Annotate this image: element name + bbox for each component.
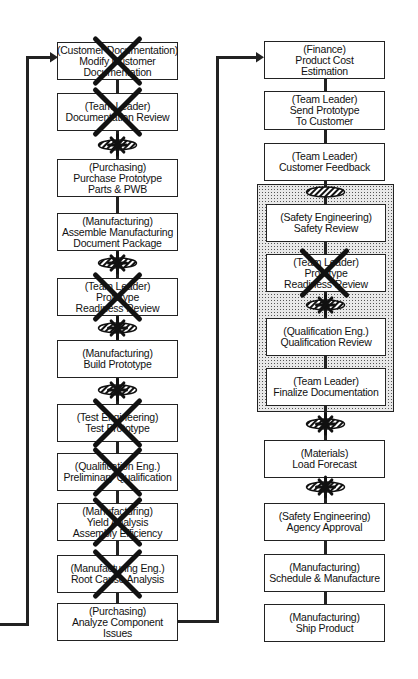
step-label: Readiness Review [76, 303, 160, 314]
step-label: Document Package [73, 238, 161, 249]
process-step-box: (Manufacturing)Ship Product [264, 604, 385, 642]
step-role: (Finance) [303, 44, 346, 55]
step-label: Assembly Efficiency [73, 528, 162, 539]
step-role: (Manufacturing) [82, 216, 153, 227]
step-label: To Customer [296, 116, 353, 127]
step-label: Product Cost [295, 55, 353, 66]
step-label: Prototype [304, 268, 347, 279]
cross-connector-vertical [216, 56, 219, 623]
step-label: Customer Feedback [279, 162, 370, 173]
step-role: (Team Leader) [85, 281, 151, 292]
step-label: Ship Product [296, 623, 354, 634]
step-label: Agency Approval [287, 522, 363, 533]
left-return-bottom [0, 623, 29, 626]
step-label: Estimation [301, 66, 348, 77]
step-label: Preliminary Qualification [63, 472, 171, 483]
process-step-box: (Team Leader)Documentation Review [57, 93, 178, 131]
left-return-line [26, 56, 29, 626]
step-label: Issues [103, 628, 132, 639]
step-label: Purchase Prototype [73, 173, 162, 184]
step-label: Documentation Review [66, 112, 170, 123]
step-role: (Manufacturing) [82, 506, 153, 517]
step-label: Test Prototype [85, 423, 149, 434]
step-label: Assemble Manufacturing [62, 227, 173, 238]
process-step-box: (Manufacturing)Assemble ManufacturingDoc… [57, 213, 178, 251]
process-step-box: (Safety Engineering)Agency Approval [264, 503, 385, 541]
step-label: Yield Analysis [87, 517, 149, 528]
process-step-box: (Materials)Load Forecast [264, 440, 385, 478]
cross-connector-top [216, 56, 258, 59]
step-label: Documentation [83, 67, 151, 78]
process-step-box: (Team Leader)PrototypeReadiness Review [266, 254, 386, 292]
process-step-box: (Purchasing)Analyze ComponentIssues [57, 603, 178, 641]
step-label: Readiness Review [284, 279, 368, 290]
process-step-box: (Finance)Product CostEstimation [264, 41, 385, 79]
step-label: Prototype [96, 292, 139, 303]
step-label: Modify Customer [79, 56, 155, 67]
process-step-box: (Team Leader)Finalize Documentation [266, 368, 386, 406]
left-return-top [26, 56, 50, 59]
process-step-box: (Purchasing)Purchase PrototypeParts & PW… [57, 159, 178, 197]
step-label: Parts & PWB [88, 184, 147, 195]
process-step-box: (Manufacturing)Yield AnalysisAssembly Ef… [57, 503, 178, 541]
cross-connector-bottom [177, 620, 219, 623]
process-step-box: (Safety Engineering)Safety Review [266, 204, 386, 242]
process-step-box: (Qualification Eng.)Qualification Review [266, 318, 386, 356]
step-role: (Team Leader) [293, 257, 359, 268]
step-label: Load Forecast [292, 459, 357, 470]
process-step-box: (Test Engineering)Test Prototype [57, 404, 178, 442]
step-label: Analyze Component [72, 617, 163, 628]
process-step-box: (Manufacturing)Schedule & Manufacture [264, 554, 385, 592]
step-role: (Purchasing) [89, 162, 146, 173]
process-step-box: (Team Leader)Customer Feedback [264, 143, 385, 181]
step-label: Build Prototype [83, 359, 151, 370]
process-step-box: (Customer Documentation)Modify CustomerD… [57, 42, 178, 80]
step-role: (Customer Documentation) [57, 45, 178, 56]
step-label: Safety Review [294, 223, 359, 234]
step-role: (Purchasing) [89, 606, 146, 617]
process-step-box: (Manufacturing Eng.)Root Cause Analysis [57, 555, 178, 593]
process-step-box: (Manufacturing)Build Prototype [57, 340, 178, 378]
process-step-box: (Qualification Eng.)Preliminary Qualific… [57, 453, 178, 491]
step-label: Finalize Documentation [273, 387, 378, 398]
step-label: Schedule & Manufacture [269, 573, 380, 584]
step-label: Root Cause Analysis [71, 574, 164, 585]
step-label: Qualification Review [280, 337, 371, 348]
process-step-box: (Team Leader)Send PrototypeTo Customer [264, 91, 385, 130]
process-step-box: (Team Leader)PrototypeReadiness Review [57, 278, 178, 316]
